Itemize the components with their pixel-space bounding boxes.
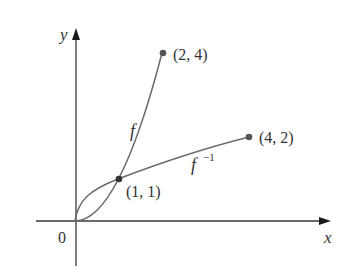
x-axis-arrow-icon [319, 217, 331, 225]
graph-canvas: y x 0 (2, 4) (4, 2) (1, 1) f f −1 [0, 0, 357, 276]
curve-f-inverse-superscript: −1 [203, 151, 215, 163]
point-label-4-2: (4, 2) [259, 129, 294, 147]
point-label-1-1: (1, 1) [126, 183, 161, 201]
point-1-1 [116, 176, 123, 183]
origin-label: 0 [58, 229, 66, 246]
point-4-2 [246, 134, 253, 141]
curve-f-inverse [75, 137, 249, 221]
curve-f-inverse-label: f [191, 155, 199, 175]
y-axis-arrow-icon [72, 28, 80, 40]
y-axis-label: y [58, 25, 68, 44]
point-2-4 [160, 50, 167, 57]
point-label-2-4: (2, 4) [173, 46, 208, 64]
x-axis-label: x [323, 228, 332, 247]
